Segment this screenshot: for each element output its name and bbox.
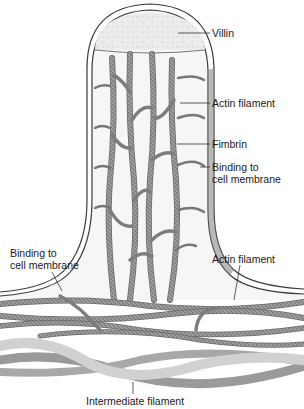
- diagram-artwork: [0, 0, 304, 409]
- label-fimbrin: Fimbrin: [212, 138, 247, 150]
- label-intermediate-filament: Intermediate filament: [86, 395, 184, 407]
- label-binding-left: Binding to cell membrane: [10, 247, 79, 271]
- label-villin: Villin: [212, 27, 234, 39]
- label-actin-filament-bottom: Actin filament: [212, 253, 275, 265]
- label-actin-filament-top: Actin filament: [212, 97, 275, 109]
- intermediate-filaments: [0, 343, 304, 384]
- terminal-web-actin: [0, 296, 304, 345]
- microvillus-diagram: Villin Actin filament Fimbrin Binding to…: [0, 0, 304, 409]
- label-binding-right: Binding to cell membrane: [212, 161, 281, 185]
